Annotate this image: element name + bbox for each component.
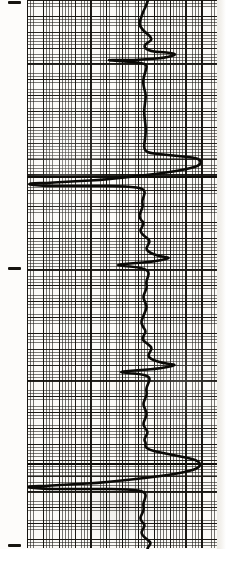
grid-major-lines xyxy=(27,0,217,548)
scan-edge-right xyxy=(217,0,226,566)
marker-line-lower xyxy=(27,463,217,465)
left-margin xyxy=(0,0,27,566)
depth-tick-top xyxy=(8,1,21,4)
scan-edge-bottom xyxy=(0,549,226,566)
depth-tick-middle xyxy=(8,267,21,270)
marker-line-upper xyxy=(27,176,217,178)
grid-track xyxy=(27,0,217,548)
log-sheet xyxy=(0,0,226,566)
depth-tick-bottom xyxy=(8,544,21,547)
